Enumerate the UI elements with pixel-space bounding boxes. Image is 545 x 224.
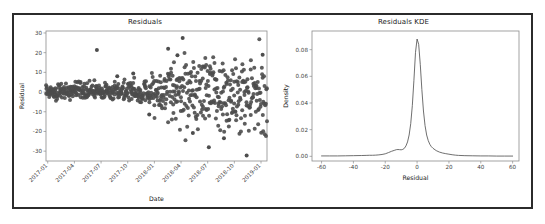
svg-text:Residual: Residual (18, 83, 25, 109)
svg-text:10: 10 (35, 69, 43, 75)
svg-text:2018-04: 2018-04 (161, 162, 182, 183)
svg-text:0: 0 (415, 164, 419, 170)
svg-text:-60: -60 (317, 164, 327, 170)
svg-text:2017-07: 2017-07 (81, 162, 102, 183)
svg-text:2019-01: 2019-01 (241, 162, 262, 183)
svg-text:-20: -20 (381, 164, 391, 170)
svg-text:20: 20 (445, 164, 453, 170)
svg-text:0.00: 0.00 (296, 153, 309, 159)
svg-text:Date: Date (149, 195, 164, 202)
kde-line-plot: 0.000.020.040.060.08-60-40-200204060Dens… (276, 15, 531, 207)
svg-text:20: 20 (35, 50, 43, 56)
svg-text:Density: Density (282, 84, 290, 108)
svg-text:Residual: Residual (402, 174, 428, 181)
svg-text:0.06: 0.06 (296, 73, 309, 79)
svg-text:2017-01: 2017-01 (28, 162, 49, 183)
panel-residuals: Residuals 3020100-10-20-302017-012017-04… (14, 15, 276, 207)
svg-text:0.08: 0.08 (296, 47, 309, 53)
svg-text:2018-01: 2018-01 (134, 162, 155, 183)
svg-text:40: 40 (477, 164, 485, 170)
svg-text:0.02: 0.02 (296, 127, 308, 133)
svg-text:2018-10: 2018-10 (214, 162, 235, 183)
svg-text:2017-04: 2017-04 (54, 162, 75, 183)
svg-text:0: 0 (38, 89, 42, 95)
residuals-scatter-plot: 3020100-10-20-302017-012017-042017-07201… (14, 15, 276, 207)
svg-text:60: 60 (509, 164, 517, 170)
svg-text:-10: -10 (33, 109, 43, 115)
svg-text:-20: -20 (33, 128, 43, 134)
svg-text:0.04: 0.04 (296, 100, 309, 106)
figure-frame: Residuals 3020100-10-20-302017-012017-04… (12, 13, 533, 209)
svg-text:2017-10: 2017-10 (108, 162, 129, 183)
svg-text:-30: -30 (33, 148, 43, 154)
svg-text:30: 30 (35, 30, 43, 36)
panel-kde: Residuals KDE 0.000.020.040.060.08-60-40… (276, 15, 531, 207)
svg-text:-40: -40 (349, 164, 359, 170)
svg-text:2018-07: 2018-07 (188, 162, 209, 183)
